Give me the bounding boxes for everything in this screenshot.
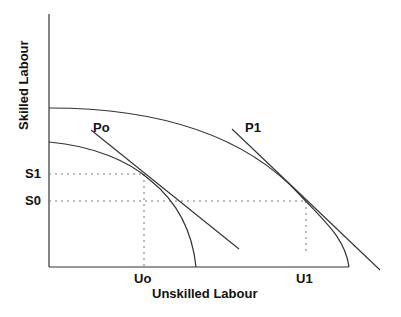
inner-ppf-curve <box>49 142 196 267</box>
po-price-line <box>91 130 239 249</box>
y-axis-label: Skilled Labour <box>16 40 31 130</box>
s1-label: S1 <box>25 166 41 181</box>
diagram-canvas <box>0 0 401 317</box>
x-axis-label: Unskilled Labour <box>152 286 257 301</box>
po-label: Po <box>93 120 110 135</box>
p1-price-line <box>232 129 380 270</box>
uo-label: Uo <box>134 271 151 286</box>
u1-label: U1 <box>296 271 313 286</box>
p1-label: P1 <box>245 120 261 135</box>
s0-label: S0 <box>25 193 41 208</box>
